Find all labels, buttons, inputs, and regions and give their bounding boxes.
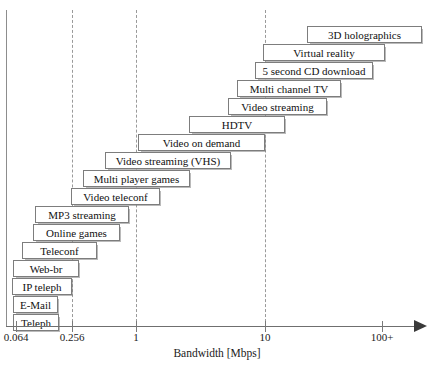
bar-3d-holographics: 3D holographics [307, 26, 422, 43]
bar-online-games: Online games [33, 224, 120, 241]
x-axis-title: Bandwidth [Mbps] [0, 347, 434, 359]
bar-e-mail: E-Mail [13, 296, 58, 313]
x-tick-label-3: 10 [260, 330, 271, 344]
bar-video-teleconf: Video teleconf [71, 188, 160, 205]
y-axis-line [6, 10, 7, 327]
bar-teleconf: Teleconf [22, 242, 97, 259]
bar-multi-player-games: Multi player games [83, 170, 190, 187]
gridline-0 [72, 10, 73, 327]
x-tick-label-0: 0.064 [4, 330, 29, 344]
x-tick-label-2: 1 [133, 330, 139, 344]
bar-ip-teleph: IP teleph [12, 278, 72, 295]
bar-mp3-streaming: MP3 streaming [35, 206, 129, 223]
bar-5-second-cd-download: 5 second CD download [255, 62, 373, 79]
bar-virtual-reality: Virtual reality [263, 44, 385, 61]
bar-multi-channel-tv: Multi channel TV [237, 80, 341, 97]
bar-video-streaming: Video streaming [228, 98, 327, 115]
x-tick-label-1: 0.256 [60, 330, 85, 344]
bar-hdtv: HDTV [189, 116, 285, 133]
x-axis-line [6, 326, 416, 327]
bar-video-on-demand: Video on demand [138, 134, 265, 151]
bandwidth-requirements-chart: 3D holographicsVirtual reality5 second C… [0, 0, 434, 366]
bar-video-streaming-vhs: Video streaming (VHS) [105, 152, 231, 169]
x-tick-label-4: 100+ [371, 330, 394, 344]
x-axis-arrow-icon [414, 320, 427, 332]
bar-web-br: Web-br [13, 260, 79, 277]
bar-teleph: Teleph [13, 314, 59, 331]
